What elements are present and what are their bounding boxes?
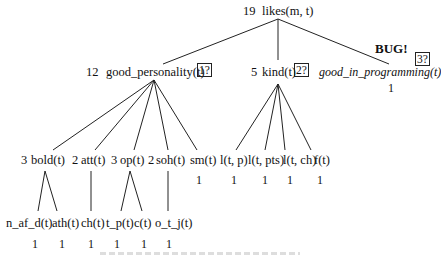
l-t-ch-label: l(t, ch) — [283, 153, 316, 167]
figure-caption-cropped — [100, 252, 300, 255]
soh-count: 2 — [148, 153, 154, 167]
f-value: 1 — [317, 173, 323, 187]
n-af-d-value: 1 — [32, 237, 38, 251]
o-t-j-label: o_t_j(t) — [155, 216, 193, 230]
t-p-value: 1 — [114, 237, 120, 251]
ath-label: ath(t) — [52, 216, 79, 230]
op-count: 3 — [111, 153, 117, 167]
query-box-1: 1? — [197, 63, 212, 77]
l-t-pts-value: 1 — [262, 173, 268, 187]
ath-value: 1 — [59, 237, 65, 251]
ch-value: 1 — [88, 237, 94, 251]
c-value: 1 — [141, 237, 147, 251]
root-node-count: 19 — [243, 4, 256, 18]
c-label: c(t) — [134, 216, 151, 230]
bold-count: 3 — [21, 153, 27, 167]
kind-label: kind(t) — [262, 65, 296, 79]
bug-annotation: BUG! — [375, 42, 408, 56]
l-t-ch-value: 1 — [287, 173, 293, 187]
proof-tree-diagram: 19 likes(m, t) 12 good_personality(t) 1?… — [0, 0, 441, 259]
root-node-label: likes(m, t) — [262, 4, 313, 18]
good-in-programming-value: 1 — [388, 81, 394, 95]
f-label: f(t) — [314, 153, 330, 167]
bold-label: bold(t) — [31, 153, 65, 167]
query-box-3: 3? — [415, 52, 430, 66]
sm-label: sm(t) — [190, 153, 216, 167]
sm-value: 1 — [196, 173, 202, 187]
att-label: att(t) — [81, 153, 105, 167]
good-personality-count: 12 — [86, 65, 99, 79]
l-t-p-value: 1 — [231, 173, 237, 187]
soh-label: soh(t) — [156, 153, 185, 167]
t-p-label: t_p(t) — [106, 216, 134, 230]
l-t-pts-label: l(t, pts) — [248, 153, 284, 167]
l-t-p-label: l(t, p) — [220, 153, 248, 167]
good-personality-label: good_personality(t) — [106, 65, 205, 79]
o-t-j-value: 1 — [166, 237, 172, 251]
n-af-d-label: n_af_d(t) — [6, 216, 53, 230]
good-in-programming-label: good_in_programming(t) — [319, 65, 441, 79]
kind-count: 5 — [251, 65, 257, 79]
query-box-2: 2? — [294, 63, 309, 77]
ch-label: ch(t) — [81, 216, 105, 230]
op-label: op(t) — [120, 153, 144, 167]
att-count: 2 — [72, 153, 78, 167]
